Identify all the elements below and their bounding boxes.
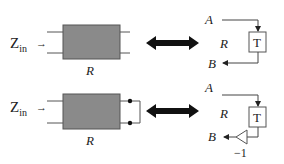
- t-label: T: [253, 110, 261, 125]
- wire-t-to-gain: [247, 127, 258, 137]
- equivalence-arrow-icon: [146, 104, 199, 118]
- input-arrow-icon: →: [36, 37, 47, 49]
- wire-a-to-t: [222, 20, 258, 31]
- equivalence-diagram: Zin → R A T R B Zin → R A T R: [0, 0, 284, 164]
- t-label: T: [253, 35, 261, 50]
- resistor-box: [63, 25, 120, 59]
- input-arrow-icon: →: [36, 101, 47, 113]
- top-row: Zin → R A T R B: [10, 12, 266, 78]
- node-dot-top: [128, 99, 132, 103]
- wire-a-to-t: [222, 95, 258, 106]
- resistor-box: [63, 94, 120, 129]
- node-a: A: [204, 80, 213, 95]
- equivalence-arrow-icon: [146, 36, 199, 50]
- zin-label: Zin: [10, 99, 27, 118]
- mid-label: R: [219, 106, 228, 121]
- bottom-row: Zin → R A T R B −1: [10, 80, 266, 160]
- box-label: R: [85, 133, 94, 148]
- node-a: A: [204, 12, 213, 27]
- short-circuit-wire: [120, 101, 140, 123]
- mid-label: R: [219, 36, 228, 51]
- node-b: B: [208, 56, 216, 71]
- inverter-gain-icon: [236, 130, 247, 144]
- box-label: R: [85, 63, 94, 78]
- zin-label: Zin: [10, 35, 27, 54]
- gain-label: −1: [234, 146, 247, 160]
- wire-t-to-b: [223, 52, 258, 63]
- node-b: B: [208, 129, 216, 144]
- node-dot-bottom: [128, 121, 132, 125]
